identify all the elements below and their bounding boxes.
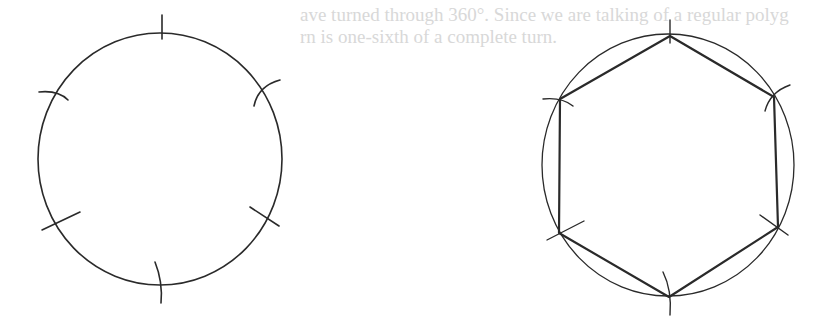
right-circle xyxy=(542,34,794,296)
arc-mark-lower-left xyxy=(42,212,80,230)
left-circle xyxy=(38,33,282,285)
hexagon xyxy=(559,36,778,297)
arc-mark-bottom xyxy=(155,262,161,303)
hex-mark-upper-right xyxy=(765,85,790,111)
inscribed-hexagon-figure xyxy=(542,20,794,315)
geometry-figures xyxy=(0,0,833,335)
circle-with-marks-figure xyxy=(38,15,282,303)
